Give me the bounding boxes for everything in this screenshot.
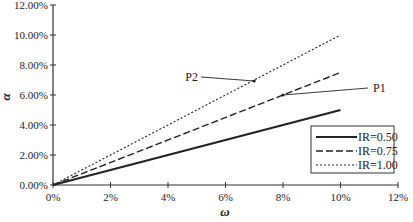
x-tick-label: 10% [330, 191, 350, 203]
y-ticks: 0.00%2.00%4.00%6.00%8.00%10.00%12.00% [14, 0, 56, 191]
annotations: P2P1 [185, 70, 385, 97]
annotation-p2: P2 [185, 70, 198, 84]
y-tick-label: 2.00% [20, 149, 48, 161]
annotation-p1: P1 [373, 81, 386, 95]
y-tick-label: 6.00% [20, 89, 48, 101]
line-chart: 0.00%2.00%4.00%6.00%8.00%10.00%12.00% 0%… [0, 0, 413, 222]
legend: IR=0.50IR=0.75IR=1.00 [311, 126, 398, 173]
arrowhead-icon [253, 80, 256, 83]
legend-label: IR=1.00 [358, 158, 398, 172]
arrowhead-icon [282, 94, 285, 97]
x-tick-label: 2% [103, 191, 118, 203]
y-tick-label: 0.00% [20, 179, 48, 191]
y-tick-label: 10.00% [14, 29, 48, 41]
x-tick-label: 0% [46, 191, 61, 203]
y-tick-label: 12.00% [14, 0, 48, 11]
y-tick-label: 8.00% [20, 59, 48, 71]
x-tick-label: 12% [388, 191, 408, 203]
series-line [53, 35, 341, 185]
x-tick-label: 8% [276, 191, 291, 203]
series-line [53, 73, 341, 186]
x-tick-label: 6% [218, 191, 233, 203]
series-line [53, 110, 341, 185]
annotation-arrow [283, 88, 368, 95]
annotation-arrow [201, 77, 254, 81]
y-tick-label: 4.00% [20, 119, 48, 131]
x-axis-title: ω [220, 204, 229, 219]
y-axis-title: α [0, 93, 13, 101]
legend-label: IR=0.75 [358, 144, 398, 158]
series-lines [53, 35, 341, 185]
legend-label: IR=0.50 [358, 130, 398, 144]
x-tick-label: 4% [161, 191, 176, 203]
